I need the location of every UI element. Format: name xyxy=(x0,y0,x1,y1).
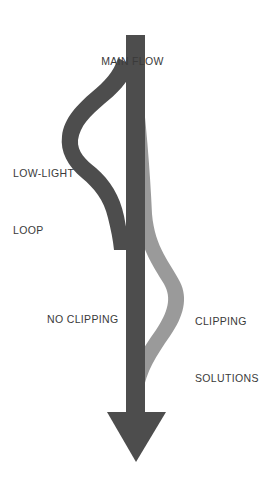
label-clipping-solutions-line-1: CLIPPING xyxy=(195,312,259,331)
label-main-flow: MAIN FLOW xyxy=(0,14,265,109)
main-flow-arrowhead-shape xyxy=(107,412,166,462)
label-low-light-loop-line-1: LOW-LIGHT xyxy=(13,164,74,183)
label-clipping-solutions: CLIPPING SOLUTIONS xyxy=(195,274,259,426)
label-low-light-loop-line-2: LOOP xyxy=(13,221,74,240)
label-clipping-solutions-line-2: SOLUTIONS xyxy=(195,369,259,388)
flow-diagram: MAIN FLOW LOW-LIGHT LOOP NO CLIPPING CLI… xyxy=(0,0,265,481)
label-no-clipping-text: NO CLIPPING xyxy=(47,310,119,329)
label-low-light-loop: LOW-LIGHT LOOP xyxy=(13,126,74,278)
label-no-clipping: NO CLIPPING xyxy=(47,272,119,367)
label-main-flow-text: MAIN FLOW xyxy=(0,52,265,71)
